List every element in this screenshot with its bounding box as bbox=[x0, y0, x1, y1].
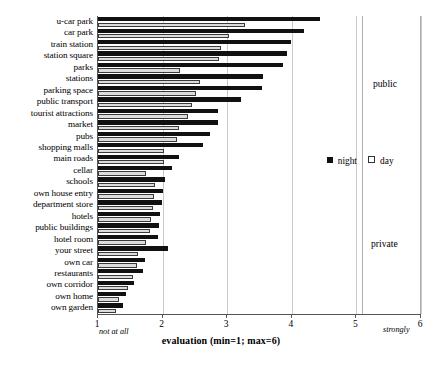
group-label-private: private bbox=[371, 238, 398, 249]
y-axis-category-labels: u-car parkcar parktrain stationstation s… bbox=[0, 16, 93, 314]
bar-night-own-house-entry bbox=[98, 189, 163, 193]
bar-night-public-transport bbox=[98, 97, 241, 101]
bar-group-own-house-entry bbox=[98, 188, 421, 199]
bar-day-main-roads bbox=[98, 160, 164, 164]
bar-day-own-garden bbox=[98, 309, 116, 313]
bar-night-station-square bbox=[98, 51, 287, 55]
bar-day-cellar bbox=[98, 171, 146, 175]
y-axis-label-restaurants: restaurants bbox=[0, 268, 93, 279]
gridline-6 bbox=[421, 16, 422, 314]
group-separator-lower bbox=[420, 16, 421, 314]
y-axis-label-parks: parks bbox=[0, 62, 93, 73]
bar-group-own-garden bbox=[98, 302, 421, 313]
bar-group-own-car bbox=[98, 257, 421, 268]
bar-day-parks bbox=[98, 68, 180, 72]
bar-day-own-corridor bbox=[98, 286, 128, 290]
bar-night-hotels bbox=[98, 212, 160, 216]
bar-day-station-square bbox=[98, 57, 219, 61]
bar-night-car-park bbox=[98, 29, 304, 33]
y-axis-label-cellar: cellar bbox=[0, 165, 93, 176]
x-tick-4 bbox=[291, 314, 292, 318]
bar-night-department-store bbox=[98, 200, 162, 204]
bar-group-parks bbox=[98, 62, 421, 73]
bar-day-u-car-park bbox=[98, 23, 245, 27]
y-axis-label-department-store: department store bbox=[0, 199, 93, 210]
y-axis-label-station-square: station square bbox=[0, 50, 93, 61]
legend-label-night: night bbox=[338, 156, 357, 166]
y-axis-label-hotel-room: hotel room bbox=[0, 234, 93, 245]
y-axis-label-own-garden: own garden bbox=[0, 302, 93, 313]
y-axis-label-car-park: car park bbox=[0, 27, 93, 38]
bar-day-your-street bbox=[98, 252, 138, 256]
bar-group-u-car-park bbox=[98, 16, 421, 27]
bar-night-tourist-attractions bbox=[98, 109, 218, 113]
bar-day-car-park bbox=[98, 34, 229, 38]
bar-night-market bbox=[98, 120, 218, 124]
y-axis-label-main-roads: main roads bbox=[0, 153, 93, 164]
bar-group-car-park bbox=[98, 27, 421, 38]
y-axis-label-train-station: train station bbox=[0, 39, 93, 50]
y-axis-label-pubs: pubs bbox=[0, 131, 93, 142]
bar-group-tourist-attractions bbox=[98, 108, 421, 119]
x-tick-label-2: 2 bbox=[152, 319, 172, 329]
x-tick-label-6: 6 bbox=[410, 319, 430, 329]
y-axis-label-own-car: own car bbox=[0, 257, 93, 268]
y-axis-label-own-home: own home bbox=[0, 291, 93, 302]
bar-night-parking-space bbox=[98, 86, 262, 90]
bar-night-own-car bbox=[98, 258, 145, 262]
y-axis-label-stations: stations bbox=[0, 73, 93, 84]
bar-night-main-roads bbox=[98, 155, 179, 159]
bar-night-train-station bbox=[98, 40, 291, 44]
bar-group-station-square bbox=[98, 50, 421, 61]
y-axis-label-market: market bbox=[0, 119, 93, 130]
group-label-public: public bbox=[373, 78, 397, 89]
legend-item-night: night bbox=[327, 155, 357, 166]
y-axis-label-tourist-attractions: tourist attractions bbox=[0, 108, 93, 119]
bar-group-pubs bbox=[98, 131, 421, 142]
bar-day-hotel-room bbox=[98, 240, 146, 244]
y-axis-label-your-street: your street bbox=[0, 245, 93, 256]
bar-day-parking-space bbox=[98, 91, 196, 95]
bar-group-department-store bbox=[98, 199, 421, 210]
x-tick-1 bbox=[97, 314, 98, 318]
bar-night-own-garden bbox=[98, 303, 123, 307]
bar-night-public-buildings bbox=[98, 223, 159, 227]
bar-night-parks bbox=[98, 63, 283, 67]
bar-group-own-home bbox=[98, 291, 421, 302]
bar-group-public-buildings bbox=[98, 222, 421, 233]
bar-group-hotels bbox=[98, 211, 421, 222]
x-tick-5 bbox=[355, 314, 356, 318]
bar-group-train-station bbox=[98, 39, 421, 50]
bar-day-public-buildings bbox=[98, 229, 150, 233]
y-axis-label-own-house-entry: own house entry bbox=[0, 188, 93, 199]
bar-day-hotels bbox=[98, 217, 151, 221]
y-axis-label-u-car-park: u-car park bbox=[0, 16, 93, 27]
bar-night-restaurants bbox=[98, 269, 143, 273]
bar-day-own-home bbox=[98, 297, 119, 301]
bar-chart: u-car parkcar parktrain stationstation s… bbox=[0, 0, 442, 368]
x-axis-high-note: strongly bbox=[383, 325, 410, 334]
x-tick-label-3: 3 bbox=[216, 319, 236, 329]
bar-day-own-car bbox=[98, 263, 137, 267]
bar-day-pubs bbox=[98, 137, 177, 141]
bar-day-market bbox=[98, 126, 179, 130]
bar-night-shopping-malls bbox=[98, 143, 203, 147]
bar-day-tourist-attractions bbox=[98, 114, 188, 118]
bar-night-schools bbox=[98, 177, 165, 181]
y-axis-label-own-corridor: own corridor bbox=[0, 279, 93, 290]
legend-label-day: day bbox=[380, 156, 393, 166]
legend-item-day: day bbox=[368, 155, 393, 166]
y-axis-label-shopping-malls: shopping malls bbox=[0, 142, 93, 153]
x-tick-3 bbox=[226, 314, 227, 318]
bar-group-own-corridor bbox=[98, 279, 421, 290]
x-axis-title: evaluation (min=1; max=6) bbox=[0, 335, 442, 346]
bar-night-u-car-park bbox=[98, 17, 320, 21]
bar-group-restaurants bbox=[98, 268, 421, 279]
bar-day-stations bbox=[98, 80, 200, 84]
bar-day-shopping-malls bbox=[98, 149, 164, 153]
bar-group-schools bbox=[98, 176, 421, 187]
bar-night-stations bbox=[98, 74, 263, 78]
legend-swatch-night-icon bbox=[327, 157, 333, 163]
x-tick-label-5: 5 bbox=[345, 319, 365, 329]
y-axis-label-parking-space: parking space bbox=[0, 85, 93, 96]
